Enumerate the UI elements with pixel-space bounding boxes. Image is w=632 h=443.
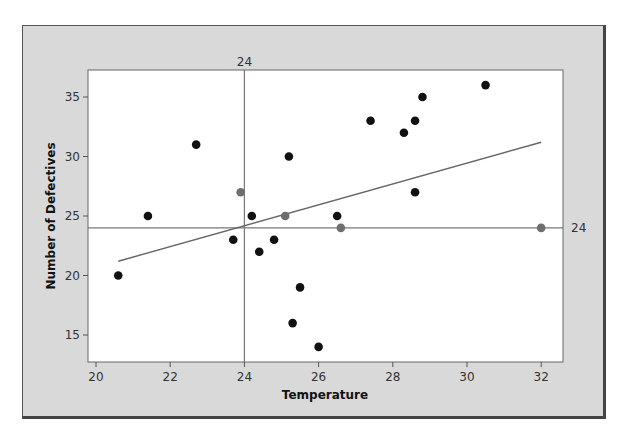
- data-point: [144, 212, 153, 221]
- x-axis-label: Temperature: [282, 388, 368, 402]
- data-point: [411, 188, 420, 197]
- data-point: [296, 283, 305, 292]
- data-point: [481, 81, 490, 90]
- x-reference-label: 24: [237, 55, 252, 69]
- x-tick-label: 26: [311, 370, 326, 384]
- x-tick-label: 30: [459, 370, 474, 384]
- data-point: [400, 128, 409, 137]
- data-point: [333, 212, 342, 221]
- y-tick-label: 35: [65, 90, 80, 104]
- y-tick-label: 20: [65, 269, 80, 283]
- data-point: [366, 117, 375, 126]
- y-axis-label: Number of Defectives: [44, 142, 58, 289]
- data-point: [281, 212, 290, 221]
- y-tick-label: 15: [65, 328, 80, 342]
- data-point: [285, 152, 294, 161]
- data-point: [229, 236, 238, 245]
- data-point: [537, 224, 546, 233]
- x-tick-label: 24: [237, 370, 252, 384]
- y-tick-label: 30: [65, 150, 80, 164]
- scatter-plot: 202224262830321520253035 2424 Temperatur…: [0, 0, 632, 443]
- y-tick-label: 25: [65, 209, 80, 223]
- data-point: [411, 117, 420, 126]
- x-tick-label: 22: [163, 370, 178, 384]
- data-point: [337, 224, 346, 233]
- data-point: [270, 236, 279, 245]
- data-point: [418, 93, 427, 102]
- data-point: [255, 247, 264, 256]
- data-point: [114, 271, 123, 280]
- data-point: [236, 188, 245, 197]
- x-tick-label: 20: [88, 370, 103, 384]
- x-tick-label: 28: [385, 370, 400, 384]
- data-point: [192, 140, 201, 149]
- data-point: [248, 212, 257, 221]
- x-tick-label: 32: [534, 370, 549, 384]
- data-point: [288, 319, 297, 328]
- plot-area: [88, 70, 563, 362]
- data-point: [314, 343, 323, 352]
- y-reference-label: 24: [571, 221, 586, 235]
